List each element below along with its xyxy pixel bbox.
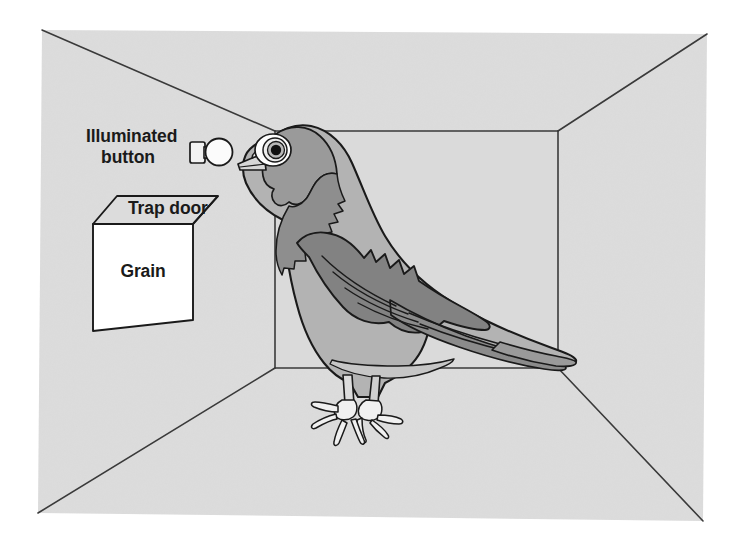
skinner-box-figure: Illuminated button Trap door Grain — [0, 0, 735, 546]
illuminated-button-label-line1: Illuminated — [86, 126, 177, 146]
button-lens-icon[interactable] — [206, 139, 233, 166]
eye-pupil-icon — [271, 145, 281, 155]
skinner-box-illustration: Illuminated button Trap door Grain — [0, 0, 735, 546]
button-mount-block — [190, 142, 205, 163]
illuminated-button[interactable] — [190, 139, 233, 166]
illuminated-button-label-line2: button — [101, 147, 155, 167]
pigeon-eye — [255, 134, 291, 166]
grain-label: Grain — [120, 261, 165, 281]
trap-door-label: Trap door — [128, 198, 208, 218]
